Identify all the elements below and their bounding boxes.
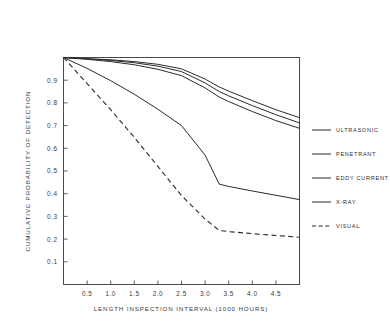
legend-label-penetrant: PENETRANT bbox=[336, 151, 376, 157]
y-tick-label: 0.5 bbox=[47, 167, 57, 174]
x-tick-label: 1.0 bbox=[106, 290, 116, 297]
legend-label-x-ray: X-RAY bbox=[336, 199, 356, 205]
legend-label-ultrasonic: ULTRASONIC bbox=[336, 127, 379, 133]
legend-label-eddy-current: EDDY CURRENT bbox=[336, 175, 389, 181]
y-axis-ticks bbox=[64, 80, 68, 262]
x-axis-ticks bbox=[87, 281, 276, 285]
legend-label-visual: VISUAL bbox=[336, 223, 360, 229]
chart-figure: 0.51.01.52.02.53.03.54.04.5 0.10.20.30.4… bbox=[0, 0, 390, 329]
y-tick-label: 0.1 bbox=[47, 258, 57, 265]
x-tick-label: 2.0 bbox=[153, 290, 163, 297]
y-axis-title: CUMULATIVE PROBABILITY OF DETECTION bbox=[24, 91, 31, 252]
x-tick-label: 1.5 bbox=[129, 290, 139, 297]
series-line-x-ray bbox=[64, 58, 300, 200]
y-tick-label: 0.6 bbox=[47, 145, 57, 152]
y-tick-label: 0.9 bbox=[47, 77, 57, 84]
chart-svg: 0.51.01.52.02.53.03.54.04.5 0.10.20.30.4… bbox=[0, 0, 390, 329]
y-tick-label: 0.7 bbox=[47, 122, 57, 129]
x-axis-tick-labels: 0.51.01.52.02.53.03.54.04.5 bbox=[82, 290, 281, 297]
x-tick-label: 3.0 bbox=[200, 290, 210, 297]
x-tick-label: 2.5 bbox=[176, 290, 186, 297]
x-axis-title: LENGTH INSPECTION INTERVAL (1000 HOURS) bbox=[94, 305, 269, 312]
y-axis-tick-labels: 0.10.20.30.40.50.60.70.80.9 bbox=[47, 77, 57, 266]
y-tick-label: 0.2 bbox=[47, 236, 57, 243]
series-line-eddy-current bbox=[64, 58, 300, 129]
chart-series-group bbox=[64, 58, 300, 238]
x-tick-label: 4.0 bbox=[247, 290, 257, 297]
x-tick-label: 0.5 bbox=[82, 290, 92, 297]
series-line-ultrasonic bbox=[64, 58, 300, 118]
plot-frame bbox=[64, 58, 300, 285]
y-tick-label: 0.8 bbox=[47, 99, 57, 106]
series-line-penetrant bbox=[64, 58, 300, 123]
y-tick-label: 0.4 bbox=[47, 190, 57, 197]
x-tick-label: 3.5 bbox=[224, 290, 234, 297]
x-tick-label: 4.5 bbox=[271, 290, 281, 297]
series-line-visual bbox=[64, 58, 300, 238]
y-tick-label: 0.3 bbox=[47, 213, 57, 220]
chart-legend: ULTRASONICPENETRANTEDDY CURRENTX-RAYVISU… bbox=[312, 127, 389, 229]
